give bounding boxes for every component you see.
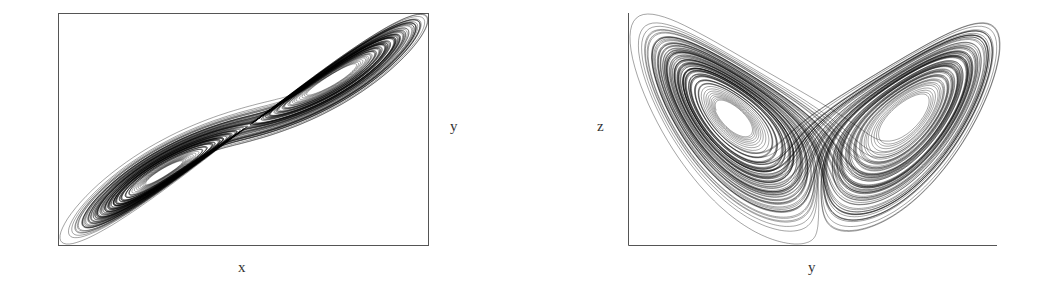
left-x-axis-label: x xyxy=(238,259,246,276)
left-plot-canvas xyxy=(0,0,524,294)
right-plot: y z xyxy=(524,0,1048,294)
trajectory-curve xyxy=(60,14,428,244)
trajectory-curve xyxy=(630,14,1000,244)
right-plot-canvas xyxy=(524,0,1048,294)
left-plot: x y xyxy=(0,0,524,294)
left-y-axis-label: y xyxy=(450,118,458,135)
right-x-axis-label: y xyxy=(808,259,816,276)
right-y-axis-label: z xyxy=(597,118,604,135)
